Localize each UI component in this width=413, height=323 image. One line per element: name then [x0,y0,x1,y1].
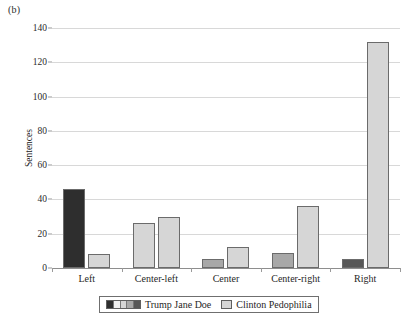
bar [272,253,294,268]
bars-layer [52,28,400,268]
x-tick-label: Center [213,273,240,284]
chart-legend: Trump Jane DoeClinton Pedophilia [99,296,319,313]
legend-swatch-segment [134,301,140,308]
bar [202,259,224,268]
bar-chart: (b) Sentences 020406080100120140 LeftCen… [0,0,413,323]
x-tick-mark [330,268,331,272]
x-tick-label: Center-left [135,273,178,284]
y-axis-title-container: Sentences [4,28,18,268]
legend-swatch-segment [107,301,114,308]
y-tick-label: 40 [38,194,48,204]
legend-swatch-segment [127,301,134,308]
bar [367,42,389,268]
legend-entry: Clinton Pedophilia [221,299,311,310]
bar [88,254,110,268]
y-tick-label: 0 [42,263,47,273]
y-tick-label: 20 [38,229,48,239]
bar-group [261,28,331,268]
legend-label: Trump Jane Doe [145,299,211,310]
x-tick-label: Left [78,273,95,284]
y-tick-label: 60 [38,160,48,170]
plot-area: 020406080100120140 [52,28,400,268]
y-tick-label: 100 [33,92,47,102]
y-tick-label: 120 [33,57,47,67]
legend-swatch [221,300,232,309]
x-tick-mark [191,268,192,272]
bar-group [191,28,261,268]
x-tick-mark [52,268,53,272]
bar-group [330,28,400,268]
legend-label: Clinton Pedophilia [236,299,311,310]
y-axis-title: Sentences [24,129,34,167]
x-tick-mark [400,268,401,272]
legend-swatch-segment [121,301,128,308]
y-tick-label: 80 [38,126,48,136]
panel-label: (b) [8,4,20,15]
legend-entry: Trump Jane Doe [106,299,211,310]
bar [342,259,364,268]
bar [63,189,85,268]
bar [297,206,319,268]
x-tick-label: Right [354,273,376,284]
legend-swatch [106,300,141,309]
bar [227,247,249,268]
bar-group [52,28,122,268]
x-axis-line [52,268,400,269]
x-tick-mark [122,268,123,272]
y-tick-label: 140 [33,23,47,33]
legend-swatch-segment [114,301,121,308]
bar [133,223,155,268]
bar-group [122,28,192,268]
x-tick-label: Center-right [271,273,320,284]
x-tick-mark [261,268,262,272]
bar [158,217,180,268]
